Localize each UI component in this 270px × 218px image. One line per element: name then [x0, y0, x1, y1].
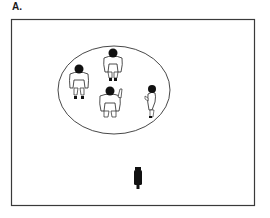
- camera-icon: [134, 167, 142, 189]
- scene-frame: [12, 20, 255, 206]
- person-right-small-icon: [145, 85, 156, 118]
- scene-diagram: [0, 0, 270, 218]
- person-left-icon: [70, 65, 89, 100]
- person-top-icon: [104, 49, 123, 82]
- person-center-waving-icon: [100, 87, 122, 118]
